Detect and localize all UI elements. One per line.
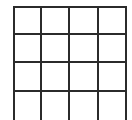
- grid-cell-r3-c2: [69, 91, 98, 120]
- grid-cell-r1-c3: [98, 34, 126, 62]
- grid-cell-r2-c0: [14, 62, 41, 91]
- grid-cell-r1-c0: [14, 34, 41, 62]
- grid-cell-r3-c3: [98, 91, 126, 120]
- grid-cell-r0-c2: [69, 7, 98, 34]
- grid-4x4: [0, 0, 132, 120]
- grid-diagram: [0, 0, 132, 120]
- grid-cell-r3-c1: [41, 91, 69, 120]
- grid-cell-r2-c2: [69, 62, 98, 91]
- grid-cell-r0-c0: [14, 7, 41, 34]
- grid-cell-r1-c1: [41, 34, 69, 62]
- grid-cell-r1-c2: [69, 34, 98, 62]
- grid-cell-r2-c1: [41, 62, 69, 91]
- grid-cell-r0-c1: [41, 7, 69, 34]
- grid-cell-r0-c3: [98, 7, 126, 34]
- grid-cell-r3-c0: [14, 91, 41, 120]
- grid-cell-r2-c3: [98, 62, 126, 91]
